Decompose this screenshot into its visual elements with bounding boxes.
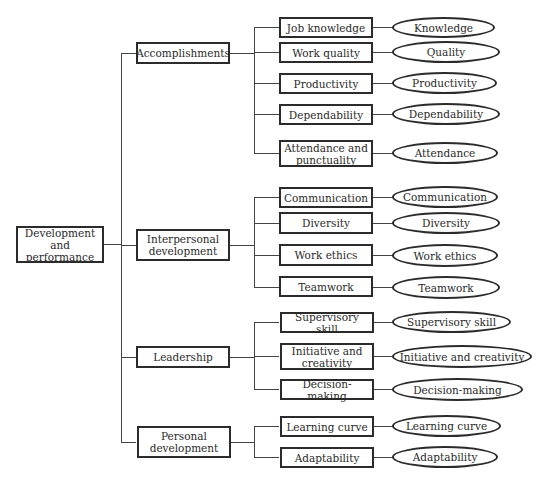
connector [121, 245, 136, 246]
connector [121, 53, 136, 54]
connector [230, 245, 254, 246]
connector [254, 322, 279, 323]
criterion-adaptability: Adaptability [280, 447, 374, 468]
connector [373, 255, 393, 256]
connector [373, 197, 393, 198]
branch-line [254, 197, 255, 287]
criterion-learning-curve: Learning curve [280, 416, 374, 437]
measure-dependability: Dependability [392, 103, 500, 125]
criterion-dependability: Dependability [279, 104, 373, 125]
connector [373, 223, 393, 224]
connector [121, 357, 136, 358]
criterion-supervisory-skill: Supervisory skill [280, 312, 374, 333]
criterion-communication: Communication [279, 187, 373, 208]
branch-line [254, 426, 255, 457]
connector [254, 457, 279, 458]
connector [230, 357, 254, 358]
main-trunk-line [121, 53, 122, 443]
connector [254, 255, 279, 256]
measure-initiative-creativity: Initiative and creativity [392, 345, 532, 368]
root-node: Development and performance [16, 226, 104, 263]
connector [373, 457, 393, 458]
connector [254, 197, 279, 198]
measure-knowledge: Knowledge [392, 17, 495, 38]
connector [373, 426, 393, 427]
connector [254, 223, 279, 224]
connector [230, 53, 254, 54]
measure-quality: Quality [392, 41, 500, 63]
measure-attendance: Attendance [392, 142, 498, 164]
connector [254, 287, 279, 288]
measure-teamwork: Teamwork [392, 276, 500, 299]
connector [104, 244, 121, 245]
criterion-diversity: Diversity [279, 212, 373, 234]
connector [254, 153, 279, 154]
connector [373, 83, 393, 84]
measure-communication: Communication [392, 186, 498, 208]
measure-decision-making: Decision-making [392, 378, 523, 401]
connector [373, 322, 393, 323]
criterion-decision-making: Decision-making [280, 379, 374, 400]
category-personal-development: Personal development [137, 426, 231, 458]
criterion-teamwork: Teamwork [279, 276, 373, 297]
measure-productivity: Productivity [392, 72, 497, 94]
connector [373, 389, 393, 390]
connector [254, 426, 279, 427]
connector [373, 356, 393, 357]
criterion-work-ethics: Work ethics [279, 244, 373, 266]
criterion-attendance-punctuality: Attendance and punctuality [279, 140, 373, 167]
connector [373, 114, 393, 115]
criterion-work-quality: Work quality [279, 42, 373, 63]
connector [254, 356, 279, 357]
measure-adaptability: Adaptability [392, 446, 498, 468]
category-leadership: Leadership [136, 346, 230, 368]
connector [254, 114, 279, 115]
measure-diversity: Diversity [392, 212, 500, 234]
branch-line [254, 27, 255, 154]
criterion-initiative-creativity: Initiative and creativity [280, 343, 374, 370]
measure-learning-curve: Learning curve [392, 415, 501, 437]
connector [254, 52, 279, 53]
connector [373, 153, 393, 154]
criterion-job-knowledge: Job knowledge [279, 17, 373, 38]
measure-supervisory-skill: Supervisory skill [392, 311, 511, 333]
connector [373, 27, 393, 28]
connector [254, 27, 279, 28]
category-accomplishments: Accomplishments [136, 42, 230, 64]
connector [230, 442, 254, 443]
connector [254, 83, 279, 84]
measure-work-ethics: Work ethics [392, 244, 498, 267]
connector [373, 287, 393, 288]
category-interpersonal-development: Interpersonal development [136, 229, 230, 261]
connector [373, 52, 393, 53]
connector [121, 442, 136, 443]
connector [254, 389, 279, 390]
criterion-productivity: Productivity [279, 73, 373, 94]
